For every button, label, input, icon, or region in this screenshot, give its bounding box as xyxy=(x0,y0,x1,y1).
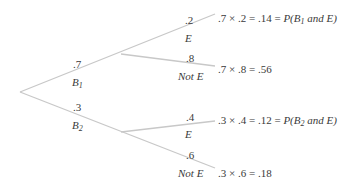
prob-b1-not-e: .8 xyxy=(186,52,194,64)
result-b1-e: .7 × .2 = .14 = P(B1 and E) xyxy=(218,12,337,24)
event-b1-e: E xyxy=(185,32,192,44)
event-b2-e: E xyxy=(185,128,192,140)
result-b1-not-e: .7 × .8 = .56 xyxy=(218,63,272,75)
event-b2: B2 xyxy=(72,119,83,131)
event-b2-not-e: Not E xyxy=(178,167,203,179)
prob-b2-not-e: .6 xyxy=(186,149,194,161)
prob-b2-e: .4 xyxy=(186,111,194,123)
prob-b2: .3 xyxy=(73,101,81,113)
branch-b1-not-e xyxy=(121,54,215,66)
result-b2-e: .3 × .4 = .12 = P(B2 and E) xyxy=(218,114,337,126)
event-b1: B1 xyxy=(72,76,83,88)
event-b1-not-e: Not E xyxy=(178,70,203,82)
result-b2-not-e: .3 × .6 = .18 xyxy=(218,167,272,179)
prob-b1-e: .2 xyxy=(185,14,193,26)
branch-b2-e xyxy=(121,121,215,132)
tree-lines xyxy=(0,0,358,184)
prob-b1: .7 xyxy=(73,58,81,70)
